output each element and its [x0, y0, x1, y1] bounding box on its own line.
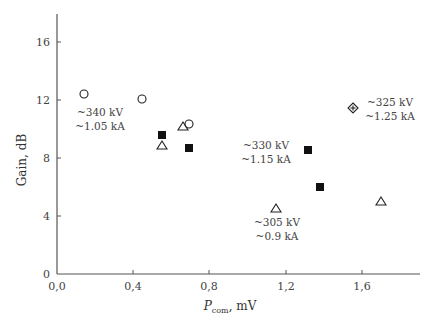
data-point [80, 90, 88, 98]
y-tick-label: 12 [36, 94, 50, 107]
annotation-line: ~340 kV [77, 106, 124, 118]
annotation-line: ~0.9 kA [256, 230, 299, 242]
annotation-line: ~1.15 kA [241, 153, 291, 165]
data-point [185, 144, 193, 152]
x-tick-label: 0,0 [48, 280, 66, 293]
y-tick-label: 8 [43, 152, 50, 165]
x-tick-label: 0,4 [124, 280, 142, 293]
data-point [316, 183, 324, 191]
x-axis-label: Pcom, mV [203, 299, 257, 315]
y-tick-label: 16 [36, 36, 50, 49]
data-point [158, 131, 166, 139]
data-point [271, 204, 281, 212]
x-tick-label: 0,8 [200, 280, 218, 293]
series-diamond [348, 103, 358, 113]
data-point [304, 146, 312, 154]
data-point [178, 122, 188, 130]
series-triangle [157, 122, 386, 212]
scatter-plot: 0 4 8 12 16 0,0 0,4 0,8 1,2 1,6 Pcom, mV… [0, 0, 437, 330]
annotation-line: ~305 kV [254, 216, 301, 228]
data-point [376, 197, 386, 205]
x-tick-label: 1,6 [353, 280, 371, 293]
x-tick-label: 1,2 [277, 280, 295, 293]
data-point [157, 141, 167, 149]
y-axis-label: Gain, dB [15, 134, 29, 187]
chart-container: 0 4 8 12 16 0,0 0,4 0,8 1,2 1,6 Pcom, mV… [0, 0, 437, 330]
y-tick-label: 4 [43, 210, 50, 223]
annotation-line: ~1.25 kA [365, 110, 415, 122]
annotation-line: ~325 kV [367, 96, 414, 108]
annotation-line: ~1.05 kA [75, 120, 125, 132]
annotation-line: ~330 kV [243, 139, 290, 151]
data-point [138, 95, 146, 103]
